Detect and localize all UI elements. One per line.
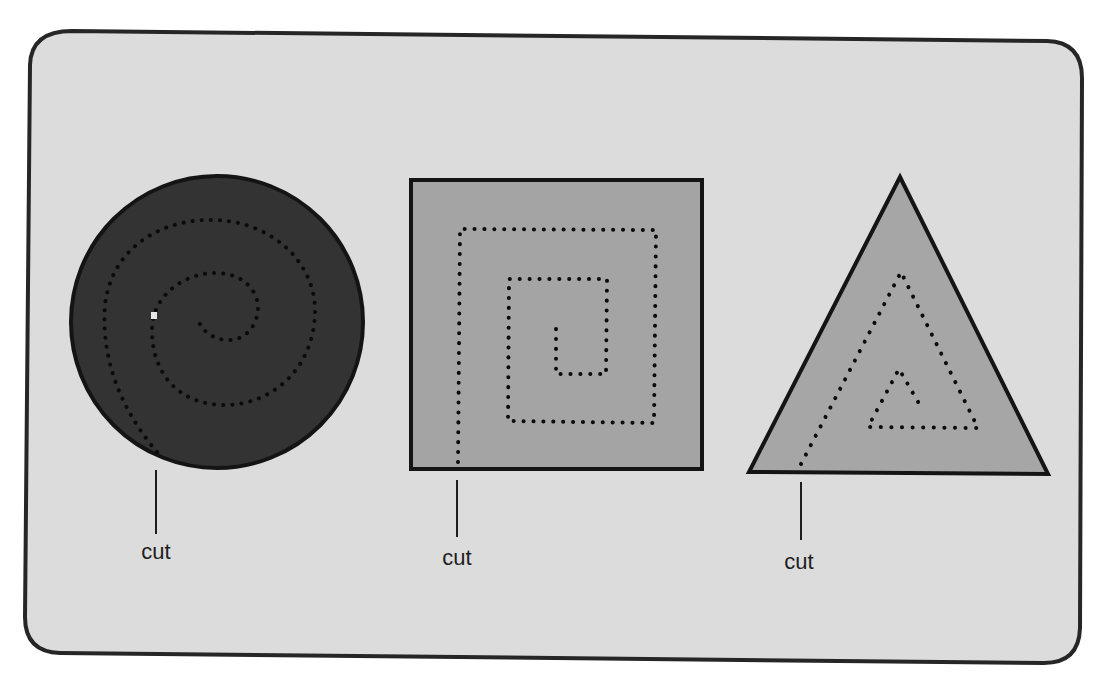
circle-shape <box>71 176 363 468</box>
triangle-cut-label: cut <box>784 549 813 574</box>
pin-highlight <box>151 312 157 319</box>
spiral-cutting-diagram: cut cut cut <box>0 0 1112 691</box>
circle-cut-label: cut <box>141 539 170 564</box>
square-cut-label: cut <box>442 545 471 570</box>
square-shape <box>411 180 702 469</box>
